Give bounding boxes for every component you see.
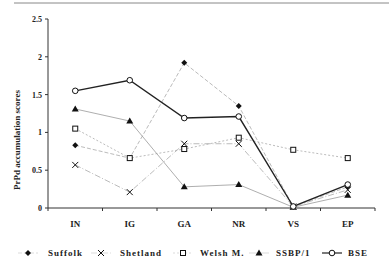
diamond-marker: [72, 142, 78, 148]
circle-marker: [72, 88, 78, 94]
legend-item-shetland: Shetland: [91, 248, 162, 258]
series-line: [75, 109, 348, 207]
circle-marker: [127, 77, 133, 83]
square-marker: [182, 147, 187, 152]
y-tick-label: 0.5: [32, 166, 42, 175]
y-tick-label: 1.5: [32, 91, 42, 100]
diamond-marker: [25, 250, 31, 256]
line-chart: PrPd accumulation scores 00.511.522.5INI…: [0, 0, 389, 272]
legend: SuffolkShetlandWelsh M.SSBP/1BSE: [18, 248, 368, 258]
square-marker: [345, 156, 350, 161]
circle-marker: [290, 204, 296, 210]
y-tick-label: 0: [38, 204, 42, 213]
square-marker: [236, 135, 241, 140]
legend-label: Shetland: [120, 248, 162, 258]
series-line: [75, 144, 348, 207]
series-line: [75, 129, 348, 158]
legend-item-suffolk: Suffolk: [18, 248, 83, 258]
series-welsh-m-: [73, 126, 351, 160]
triangle-marker: [256, 250, 263, 256]
y-tick-label: 1: [38, 128, 42, 137]
square-marker: [127, 156, 132, 161]
circle-marker: [345, 182, 351, 188]
y-axis-label: PrPd accumulation scores: [12, 90, 22, 190]
x-tick-label: EP: [342, 219, 354, 229]
series-shetland: [72, 141, 351, 210]
x-marker: [72, 162, 78, 168]
x-tick-label: NR: [232, 219, 245, 229]
y-tick-label: 2: [38, 53, 42, 62]
legend-label: BSE: [348, 248, 368, 258]
diamond-marker: [236, 103, 242, 109]
circle-marker: [236, 114, 242, 120]
x-marker: [127, 189, 133, 195]
legend-item-ssbp-1: SSBP/1: [249, 248, 311, 258]
x-tick-label: IN: [70, 219, 81, 229]
circle-marker: [329, 250, 335, 256]
triangle-marker: [72, 105, 79, 111]
square-marker: [73, 126, 78, 131]
square-marker: [181, 251, 186, 256]
series-suffolk: [72, 60, 351, 210]
y-tick-label: 2.5: [32, 15, 42, 24]
series-group: [72, 60, 352, 210]
x-tick-label: GA: [178, 219, 192, 229]
x-tick-label: IG: [124, 219, 135, 229]
x-marker: [236, 141, 242, 147]
triangle-marker: [235, 181, 242, 187]
axes: 00.511.522.5INIGGANRVSEP: [32, 15, 375, 229]
legend-item-bse: BSE: [322, 248, 368, 258]
x-tick-label: VS: [287, 219, 299, 229]
circle-marker: [181, 115, 187, 121]
legend-label: Suffolk: [48, 248, 83, 258]
legend-label: SSBP/1: [276, 248, 311, 258]
series-ssbp-1: [72, 105, 352, 209]
legend-label: Welsh M.: [200, 248, 245, 258]
square-marker: [291, 147, 296, 152]
legend-item-welsh-m-: Welsh M.: [173, 248, 245, 258]
